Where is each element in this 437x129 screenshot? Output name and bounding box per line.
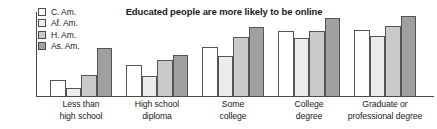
bar: [218, 56, 234, 96]
x-axis-category-line: professional degree: [332, 111, 437, 123]
bar: [309, 31, 325, 96]
bar: [278, 31, 294, 96]
bar-group: [354, 12, 416, 96]
bar: [66, 88, 82, 96]
bar: [294, 38, 310, 96]
x-axis-line: [36, 96, 434, 97]
bar: [142, 76, 158, 96]
bar: [354, 30, 370, 96]
x-axis-category-label: Graduate orprofessional degree: [332, 99, 437, 122]
bar-group: [126, 12, 188, 96]
bar: [401, 16, 417, 96]
bar: [97, 48, 113, 96]
plot-area: [36, 12, 434, 97]
bar: [202, 47, 218, 96]
bar: [370, 36, 386, 96]
bar: [50, 80, 66, 96]
bar: [325, 18, 341, 96]
bar-group: [278, 12, 340, 96]
y-axis-line: [36, 12, 37, 97]
bar: [81, 75, 97, 96]
bar-group: [50, 12, 112, 96]
bar: [233, 37, 249, 96]
bar: [385, 26, 401, 96]
bar: [173, 55, 189, 96]
bar: [126, 65, 142, 97]
bar-chart: Educated people are more likely to be on…: [0, 0, 437, 129]
bar: [249, 27, 265, 96]
bar-group: [202, 12, 264, 96]
bar: [157, 60, 173, 96]
x-axis-category-line: Graduate or: [332, 99, 437, 111]
